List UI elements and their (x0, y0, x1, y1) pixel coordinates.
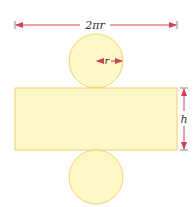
bottom-circle (69, 150, 123, 204)
circumference-label: 2πr (84, 19, 105, 32)
height-dimension: h (180, 88, 188, 150)
lateral-surface-rectangle (15, 88, 177, 150)
circumference-dimension: 2πr (15, 19, 177, 32)
cylinder-net-diagram: 2πr r h (0, 0, 194, 207)
height-label: h (180, 113, 187, 126)
